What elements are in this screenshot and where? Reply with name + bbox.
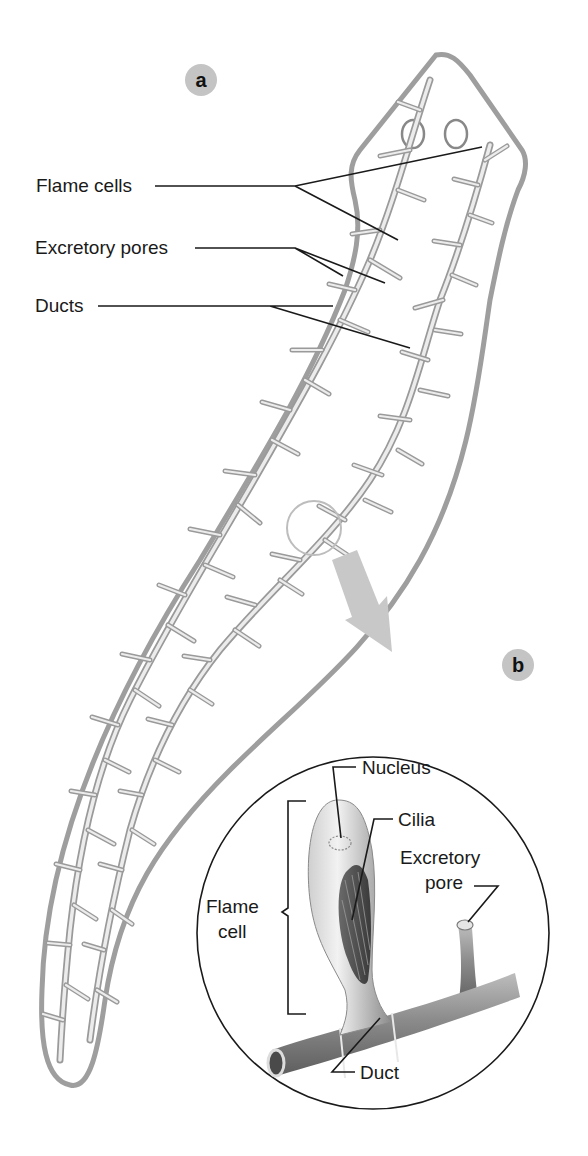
label-flame-cells: Flame cells — [36, 147, 482, 240]
svg-text:Flame: Flame — [206, 896, 259, 917]
planarian-excretory-diagram: a Flame cells Excretory pores Ducts — [0, 0, 588, 1156]
svg-text:Excretory: Excretory — [400, 847, 481, 868]
label-excretory-pores: Excretory pores — [35, 237, 385, 283]
magnify-arrow — [332, 550, 392, 652]
svg-text:Excretory pores: Excretory pores — [35, 237, 168, 258]
svg-text:pore: pore — [425, 872, 463, 893]
svg-text:Flame cells: Flame cells — [36, 175, 132, 196]
svg-text:Ducts: Ducts — [35, 295, 84, 316]
panel-a-badge: a — [185, 64, 217, 96]
svg-text:Nucleus: Nucleus — [362, 757, 431, 778]
svg-text:cell: cell — [218, 921, 247, 942]
panel-b-badge: b — [502, 649, 534, 681]
svg-text:Duct: Duct — [360, 1062, 400, 1083]
svg-text:Cilia: Cilia — [398, 809, 435, 830]
svg-text:b: b — [512, 654, 524, 676]
inset-flame-cell: Nucleus Cilia Excretory pore Flame cell … — [197, 757, 549, 1109]
svg-text:a: a — [195, 69, 207, 91]
